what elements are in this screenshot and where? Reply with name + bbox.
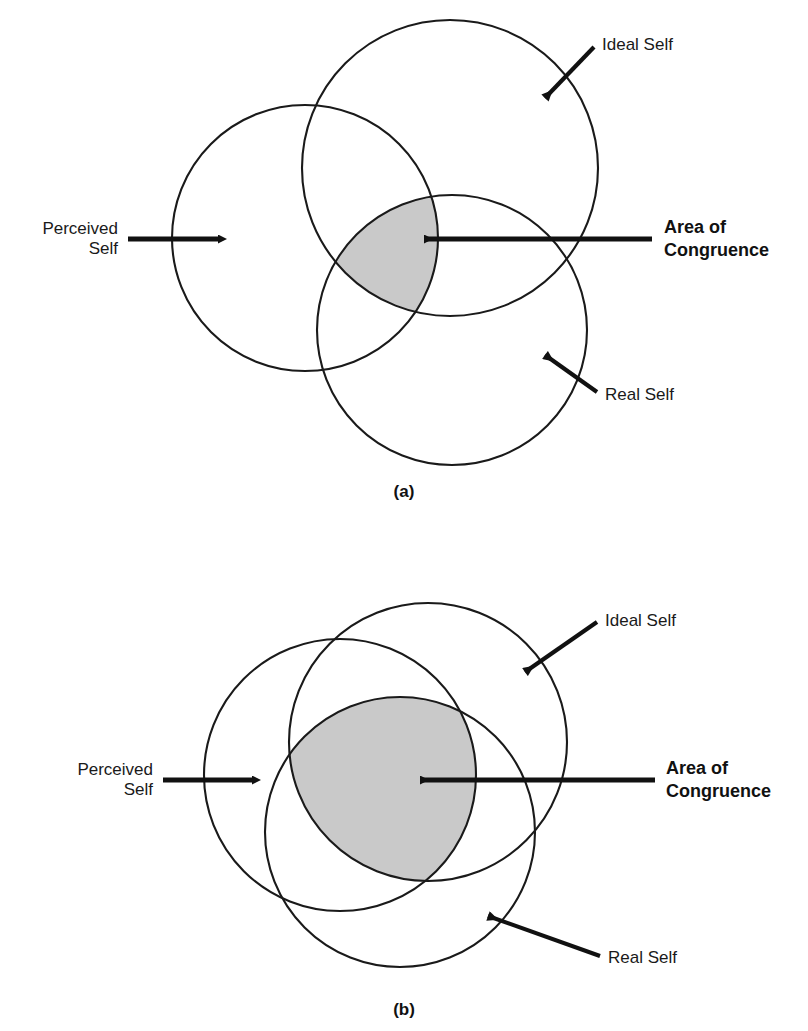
- label-real-self-b: Real Self: [608, 948, 677, 967]
- arrow-diagonal-icon-real-b: [488, 916, 600, 956]
- label-area-of-congruence-a-line2: Congruence: [664, 240, 769, 260]
- label-area-of-congruence-a-line1: Area of: [664, 217, 727, 237]
- label-perceived-self-a-line2: Self: [89, 239, 119, 258]
- venn-diagram-b: Perceived Self Area of Congruence Ideal …: [0, 515, 808, 1031]
- caption-b: (b): [393, 1000, 415, 1019]
- label-ideal-self-b: Ideal Self: [605, 611, 676, 630]
- label-perceived-self-a-line1: Perceived: [42, 219, 118, 238]
- label-area-of-congruence-b-line2: Congruence: [666, 781, 771, 801]
- label-perceived-self-b-line2: Self: [124, 780, 154, 799]
- arrow-diagonal-icon-ideal-b: [525, 622, 597, 672]
- figure-panel-b: Perceived Self Area of Congruence Ideal …: [0, 515, 808, 1031]
- label-real-self-a: Real Self: [605, 385, 674, 404]
- figure-panel-a: Perceived Self Area of Congruence Ideal …: [0, 0, 808, 515]
- caption-a: (a): [394, 482, 415, 501]
- label-perceived-self-b-line1: Perceived: [77, 760, 153, 779]
- arrow-diagonal-icon-ideal-a: [545, 47, 594, 98]
- label-area-of-congruence-b-line1: Area of: [666, 758, 729, 778]
- venn-diagram-a: Perceived Self Area of Congruence Ideal …: [0, 0, 808, 515]
- label-ideal-self-a: Ideal Self: [602, 35, 673, 54]
- arrow-diagonal-icon-real-a: [545, 355, 597, 392]
